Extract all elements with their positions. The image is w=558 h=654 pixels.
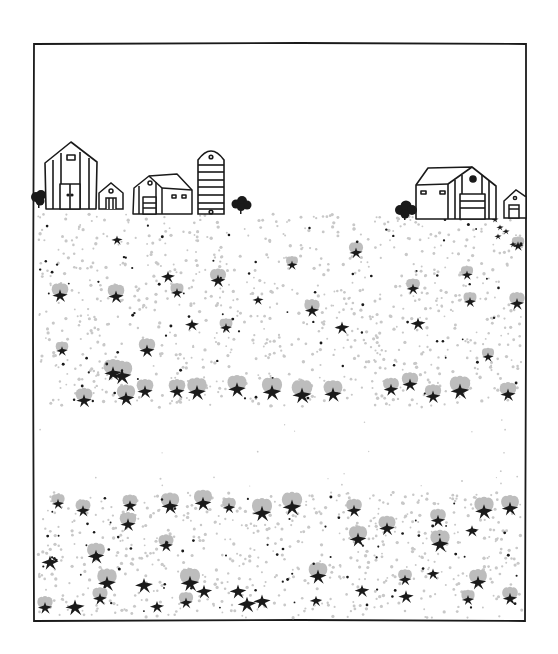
barn-with-annex: [133, 174, 192, 214]
upper-field-stipple: [37, 213, 523, 409]
bush-near-silo: [232, 196, 252, 214]
ink-dots: [39, 218, 523, 612]
small-shed-right: [504, 190, 526, 218]
small-shed-left: [99, 183, 123, 209]
large-barn-right: [416, 167, 496, 219]
farm-illustration: [0, 0, 558, 654]
frame-border: [33, 43, 526, 621]
lower-field-stipple: [37, 491, 523, 619]
tall-barn-left: [45, 142, 97, 209]
blank-band-stipple: [39, 419, 518, 486]
silo: [198, 151, 224, 214]
